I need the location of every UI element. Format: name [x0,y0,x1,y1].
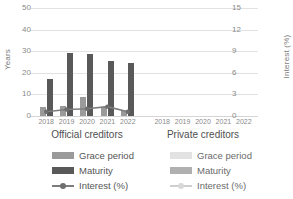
bar-grace [121,111,127,116]
chart-container: Years Interest (%) 01020304050 03691215 … [0,0,293,199]
x-tick-label: 2019 [56,118,76,125]
panel-title-official: Official creditors [27,129,147,140]
x-axis-labels-official: 20182019202020212022 [36,118,138,128]
y-tick-label-left: 10 [11,89,31,98]
bar-grace [80,97,86,116]
x-tick-label: 2022 [234,118,254,125]
bar-group [97,8,117,116]
legend-private: Grace period Maturity Interest (%) [170,148,293,193]
gridline [30,116,258,117]
panel-official-creditors [36,8,138,116]
x-tick-label: 2020 [77,118,97,125]
legend-label-grace-period: Grace period [79,150,134,161]
bar-pair [193,8,213,116]
legend-label-maturity-private: Maturity [197,165,231,176]
bar-grace [40,107,46,116]
legend-item-grace-period-official: Grace period [52,148,182,163]
y-tick-label-left: 40 [11,25,31,34]
legend-label-maturity: Maturity [79,165,113,176]
bar-grace [60,106,66,116]
legend-official: Grace period Maturity Interest (%) [52,148,182,193]
legend-label-interest-private: Interest (%) [197,180,246,191]
bar-pair [56,8,76,116]
y-tick-label-left: 30 [11,46,31,55]
legend-swatch-maturity-icon [52,167,74,174]
x-axis-labels-private: 20182019202020212022 [152,118,254,128]
bar-group [152,8,172,116]
legend-label-grace-period-private: Grace period [197,150,252,161]
legend-item-maturity-private: Maturity [170,163,293,178]
bar-maturity [128,63,134,116]
y-tick-label-left: 20 [11,68,31,77]
x-tick-label: 2020 [193,118,213,125]
bar-maturity [87,54,93,116]
y-tick-label-right: 12 [232,25,254,34]
bar-group [172,8,192,116]
bar-pair [213,8,233,116]
bar-group [193,8,213,116]
x-tick-label: 2021 [213,118,233,125]
y-tick-label-right: 15 [232,3,254,12]
y-tick-label-left: 50 [11,3,31,12]
y-tick-label-right: 6 [232,68,254,77]
legend-item-interest-official: Interest (%) [52,178,182,193]
x-tick-label: 2021 [97,118,117,125]
bar-group [118,8,138,116]
x-tick-label: 2019 [172,118,192,125]
plot-area [30,8,258,116]
y-tick-label-right: 3 [232,89,254,98]
panel-title-private: Private creditors [143,129,263,140]
bar-maturity [47,79,53,116]
legend-label-interest: Interest (%) [79,180,128,191]
bar-pair [36,8,56,116]
y-tick-label-right: 9 [232,46,254,55]
x-tick-label: 2018 [152,118,172,125]
legend-swatch-grace-period-light-icon [170,152,192,159]
bar-grace [101,107,107,116]
bar-group [56,8,76,116]
legend-item-interest-private: Interest (%) [170,178,293,193]
legend-swatch-maturity-light-icon [170,167,192,174]
x-tick-label: 2018 [36,118,56,125]
legend-swatch-interest-line-light-icon [170,182,192,189]
bar-pair [152,8,172,116]
legend-item-maturity-official: Maturity [52,163,182,178]
bar-group [213,8,233,116]
bar-group [36,8,56,116]
bar-pair [172,8,192,116]
x-tick-label: 2022 [118,118,138,125]
bar-maturity [67,53,73,116]
bar-group [77,8,97,116]
legend-swatch-interest-line-icon [52,182,74,189]
bar-maturity [108,61,114,116]
bar-pair [97,8,117,116]
legend-item-grace-period-private: Grace period [170,148,293,163]
legend-swatch-grace-period-icon [52,152,74,159]
y-axis-right-title: Interest (%) [282,34,291,80]
bar-pair [77,8,97,116]
bar-pair [118,8,138,116]
y-tick-label-left: 0 [11,111,31,120]
